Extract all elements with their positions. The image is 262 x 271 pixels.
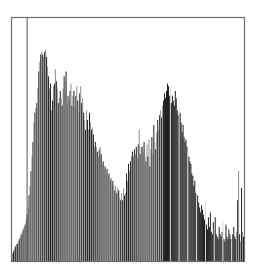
- histogram-bar: [144, 142, 145, 261]
- histogram-bar: [21, 234, 22, 261]
- histogram-bar: [233, 227, 234, 261]
- histogram-bar: [25, 225, 26, 261]
- histogram-bar: [132, 152, 133, 261]
- histogram-bar: [108, 176, 109, 261]
- histogram-bar: [51, 110, 52, 261]
- histogram-bar: [106, 174, 107, 261]
- histogram-bar: [58, 103, 59, 261]
- histogram-bar: [167, 84, 168, 261]
- histogram-bar: [148, 157, 149, 261]
- histogram-bar: [59, 98, 60, 261]
- histogram-bar: [216, 234, 217, 261]
- histogram-bar: [22, 232, 23, 261]
- histogram-bar: [164, 93, 165, 261]
- histogram-bar: [13, 251, 14, 261]
- histogram-bar: [40, 54, 41, 261]
- histogram-bar: [242, 232, 243, 261]
- histogram-bar: [67, 103, 68, 261]
- histogram-bar: [230, 239, 231, 261]
- histogram-bar: [47, 67, 48, 261]
- histogram-bar: [211, 232, 212, 261]
- histogram-bar: [170, 88, 171, 261]
- histogram-bar: [238, 171, 239, 261]
- histogram-bar: [210, 212, 211, 261]
- histogram-bar: [157, 120, 158, 261]
- histogram-bar: [15, 246, 16, 261]
- histogram-bar: [73, 91, 74, 261]
- histogram-bar: [38, 71, 39, 261]
- histogram-bar: [36, 103, 37, 261]
- histogram-bar: [133, 157, 134, 261]
- histogram-bar: [52, 101, 53, 261]
- histogram-bar: [65, 81, 66, 261]
- histogram-bar: [102, 164, 103, 261]
- histogram-bar: [26, 220, 27, 261]
- histogram-bar: [212, 234, 213, 261]
- histogram-bar: [122, 200, 123, 261]
- histogram-bar: [141, 147, 142, 261]
- histogram-bar: [171, 103, 172, 261]
- histogram-bar: [76, 86, 77, 261]
- histogram-bar: [229, 234, 230, 261]
- histogram-bar: [176, 98, 177, 261]
- histogram-bar: [68, 96, 69, 261]
- histogram-bar: [115, 186, 116, 261]
- histogram-bar: [50, 84, 51, 261]
- histogram-bar: [49, 88, 50, 261]
- histogram-bar: [135, 154, 136, 261]
- histogram-bar: [125, 193, 126, 261]
- histogram-bar: [32, 157, 33, 261]
- histogram-bar: [101, 154, 102, 261]
- histogram-bar: [155, 149, 156, 261]
- histogram-bar: [166, 91, 167, 261]
- histogram-bar: [225, 242, 226, 261]
- histogram-bar: [201, 205, 202, 261]
- histogram-bar: [110, 178, 111, 261]
- histogram-bar: [188, 157, 189, 261]
- histogram-bar: [43, 57, 44, 261]
- histogram-bar: [202, 210, 203, 261]
- histogram-bar: [159, 115, 160, 261]
- histogram-bar: [138, 144, 139, 261]
- histogram-bar: [146, 161, 147, 261]
- histogram-bar: [105, 166, 106, 261]
- histogram-bar: [187, 152, 188, 261]
- histogram-bar: [227, 239, 228, 261]
- histogram-bar: [177, 110, 178, 261]
- histogram-bar: [217, 237, 218, 261]
- histogram-bar: [97, 152, 98, 261]
- histogram-bar: [181, 122, 182, 261]
- histogram-bar: [18, 242, 19, 261]
- histogram-bar: [225, 225, 226, 261]
- histogram-bar: [169, 96, 170, 261]
- histogram-bar: [80, 86, 81, 261]
- histogram-bar: [218, 239, 219, 261]
- histogram-bar: [162, 105, 163, 261]
- histogram-bar: [208, 217, 209, 261]
- histogram-bar: [126, 174, 127, 261]
- histogram-bar: [34, 113, 35, 261]
- histogram-bar: [79, 93, 80, 261]
- histogram-bars: [12, 50, 244, 261]
- histogram-bar: [48, 76, 49, 261]
- histogram-bar: [139, 130, 140, 261]
- histogram-bar: [142, 147, 143, 261]
- histogram-bar: [168, 86, 169, 261]
- histogram-bar: [32, 142, 33, 261]
- histogram-bar: [136, 147, 137, 261]
- histogram-bar: [226, 237, 227, 261]
- histogram-bar: [207, 229, 208, 261]
- histogram-bar: [104, 169, 105, 261]
- histogram-bar: [113, 186, 114, 261]
- histogram-bar: [114, 191, 115, 261]
- histogram-bar: [83, 113, 84, 261]
- histogram-bar: [92, 127, 93, 261]
- histogram-bar: [148, 140, 149, 262]
- histogram-bar: [235, 239, 236, 261]
- histogram-bar: [156, 132, 157, 261]
- histogram-bar: [31, 171, 32, 261]
- histogram-bar: [63, 88, 64, 261]
- histogram-bar: [90, 122, 91, 261]
- histogram-bar: [121, 193, 122, 261]
- histogram-bar: [204, 220, 205, 261]
